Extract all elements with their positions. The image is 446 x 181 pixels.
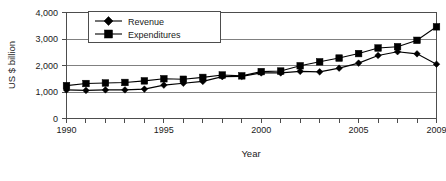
data-point-revenue-1995[interactable] xyxy=(161,82,168,89)
x-tick-label-2005: 2005 xyxy=(349,125,369,135)
x-axis-title: Year xyxy=(241,148,260,159)
data-point-expenditures-2007[interactable] xyxy=(394,43,401,50)
data-point-expenditures-2005[interactable] xyxy=(355,50,362,57)
data-point-expenditures-2003[interactable] xyxy=(316,58,323,65)
x-axis-tick-labels: 19901995200020052009 xyxy=(56,125,446,135)
y-axis-title: US $ billion xyxy=(6,41,17,89)
data-point-expenditures-2006[interactable] xyxy=(375,45,382,52)
y-tick-label-4000: 4,000 xyxy=(35,8,58,18)
data-point-expenditures-1992[interactable] xyxy=(102,80,109,87)
data-point-revenue-2003[interactable] xyxy=(316,69,323,76)
data-point-expenditures-1995[interactable] xyxy=(161,75,168,82)
data-point-revenue-1991[interactable] xyxy=(83,87,90,94)
series-revenue xyxy=(63,48,440,93)
data-point-expenditures-2000[interactable] xyxy=(258,68,265,75)
y-axis-tick-labels: 01,0002,0003,0004,000 xyxy=(35,8,58,124)
legend-label-expenditures: Expenditures xyxy=(128,30,181,40)
data-point-expenditures-2004[interactable] xyxy=(336,55,343,62)
data-point-expenditures-1998[interactable] xyxy=(219,72,226,79)
x-tick-label-1990: 1990 xyxy=(56,125,76,135)
x-axis-ticks xyxy=(67,119,437,123)
data-point-expenditures-2002[interactable] xyxy=(297,62,304,69)
data-point-expenditures-1999[interactable] xyxy=(238,73,245,80)
y-tick-label-2000: 2,000 xyxy=(35,61,58,71)
data-point-expenditures-1991[interactable] xyxy=(83,80,90,87)
data-point-expenditures-1997[interactable] xyxy=(200,74,207,81)
line-chart: 01,0002,0003,0004,000 199019952000200520… xyxy=(0,0,446,181)
x-tick-label-1995: 1995 xyxy=(154,125,174,135)
data-point-expenditures-2008[interactable] xyxy=(414,37,421,44)
square-marker xyxy=(105,30,113,38)
data-point-revenue-2009[interactable] xyxy=(433,61,440,68)
data-point-revenue-1994[interactable] xyxy=(141,86,148,93)
x-tick-label-2009: 2009 xyxy=(426,125,446,135)
data-point-expenditures-1994[interactable] xyxy=(141,78,148,85)
data-point-expenditures-1996[interactable] xyxy=(180,76,187,83)
legend: Revenue Expenditures xyxy=(89,12,221,43)
y-tick-label-1000: 1,000 xyxy=(35,87,58,97)
legend-label-revenue: Revenue xyxy=(128,17,164,27)
y-axis-ticks xyxy=(62,13,67,119)
y-tick-label-0: 0 xyxy=(53,114,58,124)
data-point-expenditures-2001[interactable] xyxy=(277,68,284,75)
data-point-expenditures-1993[interactable] xyxy=(122,79,129,86)
y-tick-label-3000: 3,000 xyxy=(35,34,58,44)
data-point-expenditures-2009[interactable] xyxy=(433,24,440,31)
legend-entry-expenditures[interactable]: Expenditures xyxy=(95,30,181,40)
x-tick-label-2000: 2000 xyxy=(251,125,271,135)
chart-canvas: 01,0002,0003,0004,000 199019952000200520… xyxy=(0,0,446,181)
data-point-revenue-2006[interactable] xyxy=(375,52,382,59)
data-point-revenue-2008[interactable] xyxy=(414,51,421,58)
data-point-expenditures-1990[interactable] xyxy=(63,82,70,89)
